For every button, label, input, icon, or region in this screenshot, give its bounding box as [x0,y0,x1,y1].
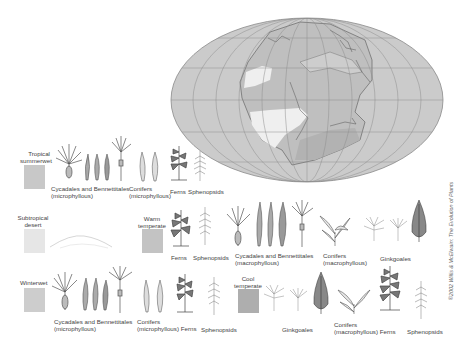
copyright-notice: ©2002 Willis & McElwain: The Evolution o… [448,182,454,300]
label-line: (microphyllous) [54,325,132,332]
label-cycad-micro-row3: Cycadales and Bennettitales (microphyllo… [54,318,132,332]
label-line: (macrophyllous) [235,259,313,266]
ginkgo-icon [262,284,286,312]
zone-label-subtropical-desert: Subtropical desert [16,214,50,228]
bennettitales-plant-icon [107,266,133,314]
conifer-tree-icon [310,270,332,316]
desert-dune-icon [50,232,114,250]
ginkgo-icon [362,216,386,242]
swatch-cool-temperate [238,289,259,313]
cycad-plant-icon [224,200,252,248]
swatch-subtropical-desert [24,229,45,253]
label-line: (macrophyllous) Ferns [334,328,396,335]
zone-label-warm-temperate: Warm temperate [137,215,167,229]
label-line: Conifers [334,321,396,328]
label-sphenopsids-row3b: Sphenopsids [407,328,443,335]
label-line: desert [16,221,50,228]
label-line: Subtropical [16,214,50,221]
conifer-microphyllous-icon [136,150,164,182]
sphenopsid-icon [413,280,429,320]
sphenopsid-icon [206,276,222,316]
label-ginkgoales-row2: Ginkgoales [380,255,411,262]
sphenopsid-icon [192,150,208,182]
label-cycad-micro-row1: Cycadales and Bennettitales (microphyllo… [51,185,129,199]
label-ferns-row1: Ferns [170,188,186,195]
bennettitales-plant-icon [110,136,132,182]
label-line: (microphyllous) [51,192,129,199]
bennettitales-plant-icon [290,200,314,248]
label-line: Cycadales and Bennettitales [54,318,132,325]
conifer-macrophyllous-icon [336,286,372,316]
label-line: Tropical [20,150,50,157]
label-cycad-macro-row2: Cycadales and Bennettitales (macrophyllo… [235,252,313,266]
fern-icon [376,264,404,314]
sphenopsid-icon [197,206,213,246]
zone-label-tropical-summerwet: Tropical summerwet [20,150,50,164]
label-line: summerwet [20,157,50,164]
conifer-macrophyllous-icon [318,212,352,248]
swatch-winterwet [24,288,45,312]
label-line: (microphyllous) [129,192,171,199]
label-line: Warm [137,215,167,222]
bennettitales-leaf-icon [254,200,290,248]
label-line: Conifers [129,185,171,192]
label-conifers-macro-row3: Conifers (macrophyllous) Ferns [334,321,396,335]
swatch-tropical-summerwet [24,165,45,189]
fern-icon [169,208,193,248]
label-conifers-micro-row1: Conifers (microphyllous) [129,185,171,199]
label-line: Conifers [137,318,196,325]
cycad-plant-icon [54,140,84,180]
fern-icon [168,144,190,182]
cycad-plant-icon [50,268,80,312]
label-sphenopsids-row3: Sphenopsids [201,326,237,333]
ginkgo-icon [388,218,408,242]
label-ginkgoales-row3: Ginkgoales [282,326,313,333]
conifer-tree-icon [408,198,430,244]
label-line: (macrophyllous) [323,259,367,266]
label-conifers-macro-row2: Conifers (macrophyllous) [323,252,367,266]
conifer-microphyllous-icon [140,278,168,314]
swatch-warm-temperate [142,229,163,253]
label-line: Conifers [323,252,367,259]
label-sphenopsids-row1: Sphenopsids [188,188,224,195]
label-line: temperate [137,222,167,229]
label-line: temperate [234,282,262,289]
label-line: Cool [234,275,262,282]
zone-label-cool-temperate: Cool temperate [234,275,262,289]
fern-icon [174,272,196,314]
label-sphenopsids-row2: Sphenopsids [193,254,229,261]
label-line: Cycadales and Bennettitales [235,252,313,259]
zone-label-winterwet: Winterwet [20,279,48,286]
label-line: (microphyllous) Ferns [137,325,196,332]
label-line: Cycadales and Bennettitales [51,185,129,192]
label-conifers-micro-row3: Conifers (microphyllous) Ferns [137,318,196,332]
ginkgo-icon [288,288,308,312]
label-ferns-row2: Ferns [171,254,187,261]
